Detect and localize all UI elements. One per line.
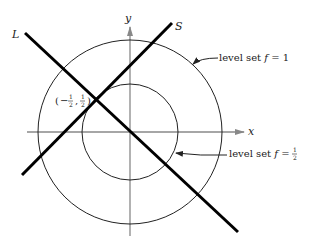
svg-text:1: 1 (81, 93, 85, 100)
intersection-point-label: ( − 1 2 , 1 2 ) (55, 93, 91, 108)
svg-text:1: 1 (69, 93, 73, 100)
level-set-1-pointer (193, 58, 218, 64)
y-axis-label: y (124, 12, 132, 25)
svg-text:level set f =: level set f = (229, 148, 290, 159)
level-set-1-label: level set f = 1 (219, 52, 289, 63)
x-axis-label: x (248, 125, 255, 138)
svg-text:): ) (87, 95, 91, 106)
line-S-label: S (175, 20, 183, 33)
level-set-half-label: level set f = 1 2 (229, 146, 297, 161)
svg-text:(: ( (55, 95, 59, 106)
line-L-label: L (11, 28, 19, 41)
level-set-diagram: x y L S ( − 1 2 , 1 2 ) level set f = 1 … (0, 0, 312, 246)
svg-text:−: − (60, 95, 68, 106)
svg-text:,: , (75, 95, 78, 106)
svg-text:1: 1 (293, 146, 297, 153)
svg-text:2: 2 (69, 101, 73, 108)
svg-text:2: 2 (293, 154, 297, 161)
svg-text:2: 2 (81, 101, 85, 108)
